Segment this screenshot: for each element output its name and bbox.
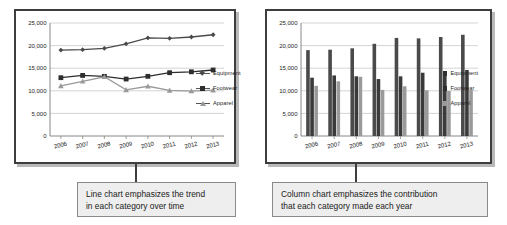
bar-footwear: [355, 76, 359, 136]
data-point-marker: [58, 75, 63, 80]
right-caption-box: Column chart emphasizes the contribution…: [272, 182, 488, 217]
legend-item-footwear: Footwear: [196, 81, 241, 96]
legend-item-footwear-col: Footwear: [443, 81, 478, 96]
data-point-marker: [189, 69, 194, 74]
legend-label-equipment: Equipment: [213, 71, 241, 77]
x-tick-label: 2006: [53, 140, 68, 149]
bar-equipment: [417, 38, 421, 136]
y-tick-label: 25,000: [279, 20, 298, 26]
bar-footwear: [332, 75, 336, 136]
line-chart-legend: Equipment Footwear Apparel: [196, 66, 241, 111]
bar-equipment: [373, 44, 377, 136]
slide-canvas: 25,00020,00015,00010,0005,00002006200720…: [0, 0, 507, 225]
legend-label-equipment-col: Equipment: [450, 71, 478, 77]
bar-apparel: [403, 86, 407, 136]
bar-equipment: [439, 37, 443, 136]
x-tick-label: 2013: [459, 140, 474, 149]
left-caption-line-2: in each category over time: [86, 200, 228, 212]
left-caption-connector: [135, 164, 137, 182]
bar-apparel: [381, 90, 385, 136]
data-point-marker: [189, 35, 194, 40]
x-tick-label: 2008: [97, 140, 112, 149]
footwear-line-marker-icon: [196, 85, 210, 92]
y-tick-label: 10,000: [279, 88, 298, 94]
y-tick-label: 5,000: [282, 111, 298, 117]
line-series-apparel: [61, 77, 213, 91]
x-tick-label: 2012: [184, 140, 199, 149]
x-tick-label: 2011: [415, 140, 430, 149]
x-tick-label: 2006: [304, 140, 319, 149]
column-chart-legend: Equipment Footwear Apparel: [443, 66, 478, 111]
bar-footwear: [421, 73, 425, 136]
y-tick-label: 0: [294, 133, 298, 139]
right-caption-line-2: that each category made each year: [281, 200, 480, 212]
equipment-swatch-icon: [443, 71, 447, 75]
data-point-marker: [102, 46, 107, 51]
y-tick-label: 10,000: [28, 88, 47, 94]
equipment-line-marker-icon: [196, 70, 210, 77]
bar-apparel: [359, 77, 363, 136]
data-point-marker: [124, 77, 129, 82]
x-tick-label: 2011: [162, 140, 177, 149]
x-tick-label: 2010: [393, 140, 408, 149]
apparel-swatch-icon: [443, 101, 447, 105]
x-tick-label: 2009: [118, 140, 133, 149]
x-tick-label: 2013: [205, 140, 220, 149]
data-point-marker: [167, 70, 172, 75]
bar-footwear: [399, 76, 403, 136]
left-caption-box: Line chart emphasizes the trend in each …: [77, 182, 236, 217]
data-point-marker: [145, 36, 150, 41]
legend-item-equipment: Equipment: [196, 66, 241, 81]
bar-equipment: [306, 50, 310, 136]
legend-label-apparel-col: Apparel: [450, 101, 470, 107]
x-tick-label: 2010: [140, 140, 155, 149]
y-tick-label: 20,000: [28, 43, 47, 49]
y-tick-label: 20,000: [279, 43, 298, 49]
bar-apparel: [336, 81, 340, 136]
legend-label-footwear: Footwear: [213, 86, 237, 92]
bar-apparel: [425, 90, 429, 136]
legend-label-apparel: Apparel: [213, 101, 233, 107]
data-point-marker: [211, 32, 216, 37]
left-caption-line-1: Line chart emphasizes the trend: [86, 188, 228, 200]
apparel-line-marker-icon: [196, 100, 210, 107]
y-tick-label: 0: [43, 133, 47, 139]
data-point-marker: [58, 48, 63, 53]
legend-item-equipment-col: Equipment: [443, 66, 478, 81]
legend-label-footwear-col: Footwear: [450, 86, 474, 92]
footwear-swatch-icon: [443, 86, 447, 90]
legend-item-apparel: Apparel: [196, 96, 241, 111]
bar-apparel: [314, 86, 318, 136]
y-tick-label: 25,000: [28, 20, 47, 26]
right-caption-connector: [355, 164, 357, 182]
bar-equipment: [328, 50, 332, 136]
x-tick-label: 2007: [75, 140, 90, 149]
x-tick-label: 2012: [437, 140, 452, 149]
bar-equipment: [395, 38, 399, 136]
x-tick-label: 2009: [371, 140, 386, 149]
x-tick-label: 2008: [349, 140, 364, 149]
data-point-marker: [167, 36, 172, 41]
right-caption-line-1: Column chart emphasizes the contribution: [281, 188, 480, 200]
bar-equipment: [350, 48, 354, 136]
data-point-marker: [80, 47, 85, 52]
x-tick-label: 2007: [326, 140, 341, 149]
bar-footwear: [310, 78, 314, 136]
legend-item-apparel-col: Apparel: [443, 96, 478, 111]
y-tick-label: 15,000: [28, 65, 47, 71]
data-point-marker: [80, 73, 85, 78]
data-point-marker: [145, 74, 150, 79]
bar-footwear: [377, 79, 381, 136]
y-tick-label: 5,000: [31, 111, 47, 117]
y-tick-label: 15,000: [279, 65, 298, 71]
